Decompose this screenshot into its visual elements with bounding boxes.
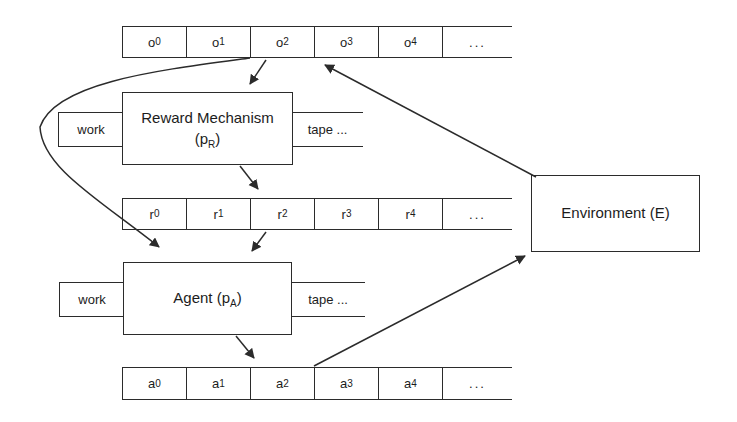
action-cell-4: a4	[379, 368, 443, 399]
reward-cell-4: r4	[379, 199, 443, 229]
environment-box: Environment (E)	[531, 175, 700, 252]
reward-cell-3: r3	[315, 199, 379, 229]
agent-title: Agent (pA)	[173, 288, 241, 308]
observation-cell-1: o1	[187, 27, 251, 57]
action-cell-2: a2	[251, 368, 315, 399]
reward-mechanism-work-tape: work	[58, 112, 124, 147]
arrow-observation-to-reward-mechanism	[250, 60, 266, 84]
agent-tape-lines: tape ...	[291, 282, 365, 317]
action-cell-ellipsis: ...	[443, 368, 512, 399]
arrow-reward-mechanism-to-reward-tape	[240, 166, 258, 189]
reward-cell-ellipsis: ...	[443, 199, 512, 229]
arrow-agent-to-action-tape	[236, 336, 254, 358]
tape-label: tape ...	[308, 292, 348, 307]
reward-mechanism-box: Reward Mechanism (pR)	[122, 92, 293, 165]
reward-tape: r0 r1 r2 r3 r4 ...	[122, 198, 512, 230]
agent-box: Agent (pA)	[123, 262, 292, 335]
action-cell-0: a0	[123, 368, 187, 399]
environment-title: Environment (E)	[561, 203, 669, 223]
reward-cell-1: r1	[187, 199, 251, 229]
action-cell-1: a1	[187, 368, 251, 399]
action-cell-3: a3	[315, 368, 379, 399]
reward-mechanism-tape-lines: tape ...	[292, 112, 363, 147]
observation-cell-0: o0	[123, 27, 187, 57]
observation-cell-2: o2	[251, 27, 315, 57]
reward-mechanism-title: Reward Mechanism	[141, 108, 274, 128]
work-label: work	[77, 122, 104, 137]
observation-cell-ellipsis: ...	[443, 27, 512, 57]
reward-mechanism-symbol: (pR)	[195, 129, 221, 149]
action-tape: a0 a1 a2 a3 a4 ...	[122, 367, 512, 400]
reward-cell-0: r0	[123, 199, 187, 229]
agent-work-tape: work	[59, 282, 125, 317]
work-label: work	[78, 292, 105, 307]
observation-cell-4: o4	[379, 27, 443, 57]
reward-cell-2: r2	[251, 199, 315, 229]
observation-tape: o0 o1 o2 o3 o4 ...	[122, 26, 512, 58]
arrow-reward-tape-to-agent	[252, 232, 266, 251]
tape-label: tape ...	[308, 122, 348, 137]
diagram-canvas: o0 o1 o2 o3 o4 ... work tape ... Reward …	[0, 0, 737, 422]
observation-cell-3: o3	[315, 27, 379, 57]
